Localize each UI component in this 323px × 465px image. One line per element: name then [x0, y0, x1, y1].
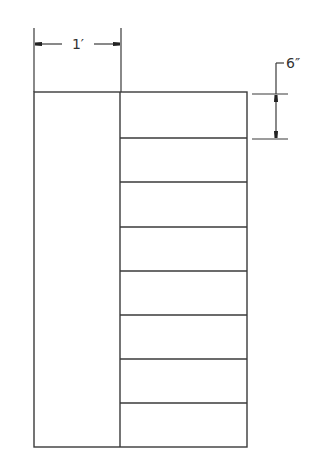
- height-dimension-label: 6″: [286, 55, 300, 71]
- width-dimension-label: 1′: [72, 36, 84, 52]
- panel-lines: [120, 138, 247, 403]
- diagram-canvas: 1′ 6″: [0, 0, 323, 465]
- height-dimension: [252, 63, 288, 139]
- outer-rectangle: [34, 92, 247, 447]
